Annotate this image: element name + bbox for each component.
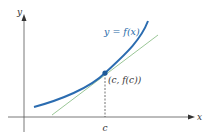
y-axis-arrow-icon	[22, 14, 27, 21]
x-axis-label: x	[197, 112, 202, 122]
diagram-svg: y x y = f(x) (c, f(c)) c	[0, 0, 208, 139]
y-axis-label: y	[16, 7, 23, 17]
c-tick-label: c	[102, 123, 107, 133]
curve-label: y = f(x)	[103, 26, 140, 37]
tangent-line-diagram: y x y = f(x) (c, f(c)) c	[0, 0, 208, 139]
x-axis-arrow-icon	[188, 115, 195, 120]
tangent-point	[102, 70, 107, 75]
point-label: (c, f(c))	[108, 75, 142, 85]
